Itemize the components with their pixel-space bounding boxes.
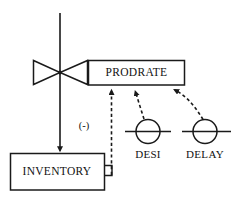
- desi-prodrate-dashed-line: [136, 92, 145, 119]
- info-link-desi-prodrate: [136, 92, 145, 119]
- inventory-tab-joint: [105, 171, 111, 174]
- polarity-negative-label: (-): [79, 120, 90, 132]
- desi-label: DESI: [135, 148, 161, 160]
- delay-prodrate-dashed-curve: [175, 90, 203, 120]
- prodrate-label: PRODRATE: [106, 66, 168, 78]
- inventory-label: INVENTORY: [23, 165, 92, 177]
- valve-right-triangle: [60, 61, 88, 85]
- valve-center-dot: [58, 71, 62, 75]
- node-inventory[interactable]: INVENTORY: [11, 154, 113, 191]
- system-dynamics-diagram: PRODRATE INVENTORY DESI DELAY (-): [0, 0, 245, 201]
- info-link-delay-prodrate: [175, 90, 203, 120]
- node-prodrate[interactable]: PRODRATE: [89, 61, 185, 86]
- node-desi[interactable]: DESI: [125, 120, 171, 160]
- node-delay[interactable]: DELAY: [182, 120, 231, 160]
- delay-label: DELAY: [186, 148, 224, 160]
- valve-left-triangle: [34, 61, 61, 85]
- diagram-canvas: PRODRATE INVENTORY DESI DELAY (-): [0, 0, 245, 201]
